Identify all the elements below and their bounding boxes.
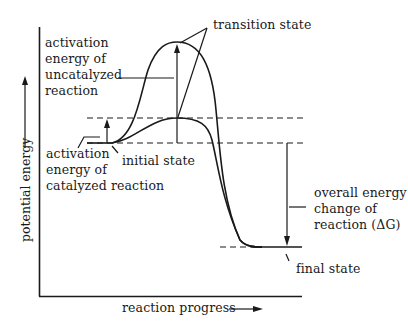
- uncatalyzed-activation-arrow-head: [174, 44, 180, 53]
- x-label-arrow-head: [253, 306, 263, 312]
- catalyzed-activation-label-line2: energy of: [46, 162, 107, 178]
- catalyzed-activation-label-line3: catalyzed reaction: [46, 178, 164, 194]
- y-label-arrow-head: [22, 76, 28, 85]
- uncatalyzed-curve: [112, 42, 262, 247]
- overall-change-label-line1: overall energy: [314, 185, 407, 201]
- overall-change-label-line3: reaction (ΔG): [314, 217, 400, 233]
- y-axis-label: potential energy: [18, 138, 33, 242]
- transition-state-label: transition state: [213, 17, 311, 33]
- final-state-leader: [286, 254, 289, 261]
- uncatalyzed-activation-label-line3: uncatalyzed: [45, 67, 122, 83]
- uncatalyzed-activation-label-line4: reaction: [45, 83, 98, 99]
- uncatalyzed-activation-label-line2: energy of: [45, 51, 106, 67]
- overall-change-label-line2: change of: [314, 201, 377, 217]
- uncatalyzed-activation-label-line1: activation: [45, 35, 109, 51]
- delta-g-arrow-head: [284, 236, 290, 246]
- x-axis-label: reaction progress: [122, 300, 236, 316]
- final-state-label: final state: [296, 261, 361, 277]
- catalyzed-activation-label-line1: activation: [46, 146, 110, 162]
- initial-state-label: initial state: [122, 153, 195, 169]
- initial-state-leader: [112, 146, 118, 153]
- catalyzed-activation-arrow-head: [104, 119, 110, 128]
